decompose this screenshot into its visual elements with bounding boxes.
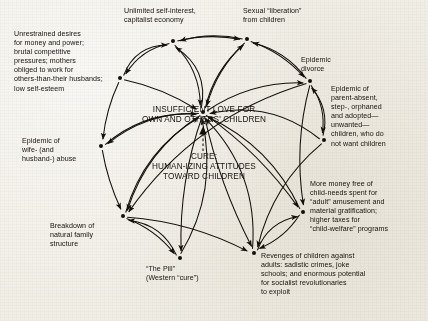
node-dot-wife-abuse <box>99 144 103 148</box>
node-label-more-money: More money free of child-needs spent for… <box>310 180 428 235</box>
node-label-epidemic-divorce: Epidemic divorce <box>301 56 361 74</box>
edge-sexual-liberation-to-insufficient-love <box>207 43 245 106</box>
node-dot-revenges <box>252 251 256 255</box>
edge-capitalism-to-unrestrained-desires <box>126 44 170 75</box>
edge-insufficient-love-to-capitalism <box>176 47 203 108</box>
node-dot-the-pill <box>178 256 182 260</box>
node-label-wife-abuse: Epidemic of wife- (and husband-) abuse <box>22 137 98 164</box>
edge-epidemic-divorce-to-parent-absent <box>311 85 323 133</box>
node-label-parent-absent: Epidemic of parent-absent, step-, orphan… <box>331 85 425 149</box>
edge-capitalism-to-sexual-liberation <box>177 37 240 41</box>
edge-insufficient-love-to-sexual-liberation <box>205 45 243 108</box>
edge-unrestrained-desires-to-capitalism <box>124 45 168 76</box>
node-dot-family-breakdown <box>121 214 125 218</box>
edge-more-money-to-revenges <box>259 215 299 249</box>
node-label-unrestrained-desires: Unrestrained desires for money and power… <box>14 30 122 94</box>
node-dot-more-money <box>301 210 305 214</box>
edge-epidemic-divorce-to-sexual-liberation <box>253 43 306 79</box>
center-cure-label: CURE: HUMAN-IZING ATTITUDES TOWARD CHILD… <box>132 152 276 182</box>
edge-family-breakdown-to-the-pill <box>127 219 175 254</box>
node-dot-epidemic-divorce <box>308 79 312 83</box>
node-dot-capitalism <box>171 39 175 43</box>
causal-loop-diagram: Unlimited self-interest, capitalist econ… <box>0 0 428 321</box>
edge-the-pill-to-family-breakdown <box>129 220 177 255</box>
edge-epidemic-divorce-to-more-money <box>300 85 310 205</box>
node-label-family-breakdown: Breakdown of natural family structure <box>50 222 122 249</box>
edge-wife-abuse-to-family-breakdown <box>102 150 121 209</box>
center-problem-label: INSUFFICIENT LOVE FOR OWN AND OTHERS' CH… <box>136 105 272 125</box>
edge-revenges-to-insufficient-love <box>205 119 253 249</box>
node-label-capitalism: Unlimited self-interest, capitalist econ… <box>124 7 236 25</box>
edge-capitalism-to-insufficient-love <box>175 45 201 106</box>
edge-revenges-to-more-money <box>257 217 297 251</box>
node-dot-sexual-liberation <box>245 37 249 41</box>
edge-sexual-liberation-to-epidemic-divorce <box>251 41 305 77</box>
node-label-revenges: Revenges of children against adults: sad… <box>261 252 407 297</box>
edge-family-breakdown-to-revenges <box>127 217 247 251</box>
node-dot-parent-absent <box>322 138 326 142</box>
node-label-the-pill: “The Pill” (Western “cure”) <box>146 265 226 283</box>
node-label-sexual-liberation: Sexual “liberation” from children <box>243 7 335 25</box>
edge-paths <box>102 36 325 256</box>
